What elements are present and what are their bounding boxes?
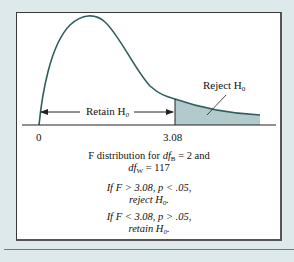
reject-label: Reject H0 <box>203 79 245 91</box>
rule-reject-line-1: If F > 3.08, p < .05, <box>16 182 282 194</box>
rule-retain-line-1: If F < 3.08, p > .05, <box>16 211 282 223</box>
tick-critical: 3.08 <box>163 131 182 143</box>
caption-line-1: F distribution for dfB = 2 and <box>16 150 282 162</box>
retain-label: Retain H0 <box>86 105 129 117</box>
arrow-head-right <box>166 109 174 115</box>
rule-retain-line-2: retain H0. <box>16 223 282 235</box>
rule-reject-line-2: reject H0. <box>16 194 282 206</box>
f-curve <box>39 16 260 125</box>
tick-zero: 0 <box>36 131 42 143</box>
caption-line-2: dfW = 117 <box>16 162 282 174</box>
